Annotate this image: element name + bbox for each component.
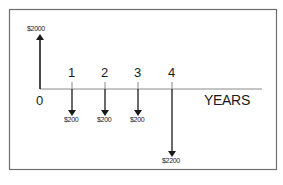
period-label-4: 4 bbox=[168, 66, 175, 79]
period-label-1: 1 bbox=[68, 66, 75, 79]
flow-label-period-0: $2000 bbox=[27, 25, 45, 32]
flow-label-period-2: $200 bbox=[97, 116, 111, 123]
axis-title: YEARS bbox=[204, 93, 250, 107]
flow-label-period-1: $200 bbox=[64, 116, 78, 123]
period-label-0: 0 bbox=[36, 94, 43, 107]
flow-label-period-4: $2200 bbox=[162, 157, 180, 164]
period-label-3: 3 bbox=[134, 66, 141, 79]
cash-flow-diagram: $2000 $200 $200 $200 $2200 0 1 2 3 4 YEA… bbox=[0, 0, 283, 185]
period-label-2: 2 bbox=[101, 66, 108, 79]
flow-label-period-3: $200 bbox=[130, 116, 144, 123]
